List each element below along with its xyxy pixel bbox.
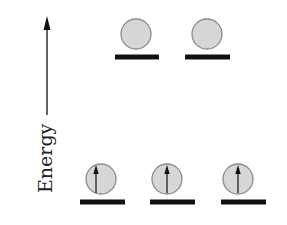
upper-energy-level <box>115 19 230 60</box>
orbital-lower-3 <box>221 164 266 205</box>
orbital-lower-2 <box>150 164 195 205</box>
lower-energy-level <box>80 164 266 205</box>
energy-level-diagram: Energy <box>0 0 287 225</box>
arrow-up-icon <box>44 16 51 30</box>
orbital-circle <box>86 164 116 194</box>
orbital-upper-1 <box>115 19 159 60</box>
orbital-level-bar <box>185 55 230 60</box>
orbital-circle <box>192 19 222 49</box>
orbital-circle <box>121 19 151 49</box>
orbital-level-bar <box>221 200 266 205</box>
orbital-upper-2 <box>185 19 230 60</box>
orbital-level-bar <box>80 200 125 205</box>
orbital-lower-1 <box>80 164 125 205</box>
orbital-level-bar <box>150 200 195 205</box>
orbital-level-bar <box>115 55 159 60</box>
energy-axis: Energy <box>34 16 56 193</box>
energy-axis-label: Energy <box>34 123 56 193</box>
